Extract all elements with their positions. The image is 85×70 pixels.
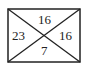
region-right-value: 16 [59,29,72,42]
region-left-value: 23 [12,29,25,42]
region-top-value: 16 [38,13,51,26]
region-bottom-value: 7 [41,44,48,57]
